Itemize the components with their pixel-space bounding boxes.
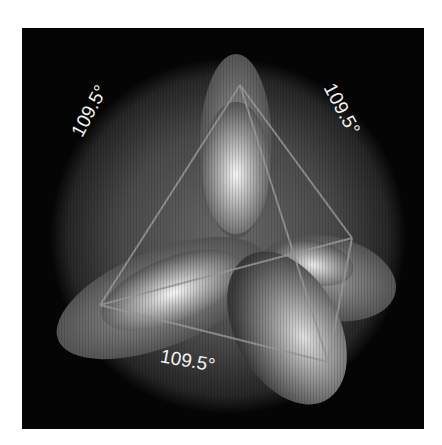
diagram-frame: 109.5° 109.5° 109.5° xyxy=(22,28,424,429)
tetrahedral-orbitals-diagram xyxy=(22,28,424,429)
